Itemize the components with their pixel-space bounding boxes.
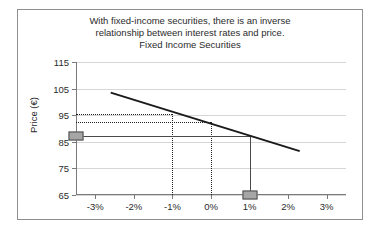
plot-area: 65758595105115 -3%-2%-1%0%1%2%3% bbox=[76, 62, 346, 195]
y-tick-label: 95 bbox=[58, 110, 69, 121]
x-tick-mark bbox=[95, 195, 96, 199]
x-tick-label: 0% bbox=[204, 201, 218, 212]
x-tick-label: 2% bbox=[281, 201, 295, 212]
x-tick-mark bbox=[134, 195, 135, 199]
chart-frame: With fixed-income securities, there is a… bbox=[17, 9, 363, 220]
chart-caption-line-2: relationship between interest rates and … bbox=[18, 27, 362, 39]
y-tick-mark bbox=[72, 195, 76, 196]
x-tick-label: -1% bbox=[164, 201, 181, 212]
y-tick-label: 115 bbox=[54, 57, 69, 68]
chart-title-block: With fixed-income securities, there is a… bbox=[18, 15, 362, 52]
x-tick-mark bbox=[327, 195, 328, 199]
y-tick-label: 105 bbox=[53, 83, 69, 94]
series-line bbox=[76, 62, 346, 195]
y-tick-label: 65 bbox=[58, 190, 69, 201]
chart-title: Fixed Income Securities bbox=[18, 39, 362, 51]
x-tick-mark bbox=[288, 195, 289, 199]
marker-price-axis bbox=[69, 132, 84, 141]
series-polyline bbox=[111, 93, 300, 152]
x-tick-mark bbox=[211, 195, 212, 199]
y-tick-label: 85 bbox=[58, 136, 69, 147]
x-tick-mark bbox=[172, 195, 173, 199]
x-tick-label: 3% bbox=[320, 201, 334, 212]
chart-caption-line-1: With fixed-income securities, there is a… bbox=[18, 15, 362, 27]
y-axis-title: Price (€) bbox=[28, 97, 39, 133]
marker-rate-1pct bbox=[242, 191, 257, 200]
x-tick-label: -3% bbox=[87, 201, 104, 212]
y-tick-label: 75 bbox=[58, 163, 69, 174]
x-tick-label: -2% bbox=[125, 201, 142, 212]
x-tick-label: 1% bbox=[243, 201, 257, 212]
